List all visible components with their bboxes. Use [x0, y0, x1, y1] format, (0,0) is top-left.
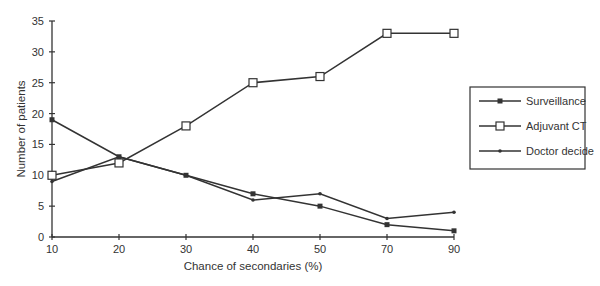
y-tick-label: 35: [32, 15, 44, 27]
dot-marker-icon: [50, 180, 54, 184]
legend-label: Adjuvant CT: [526, 120, 587, 132]
dot-marker-icon: [318, 192, 322, 196]
y-tick-label: 15: [32, 138, 44, 150]
open-square-marker-icon: [249, 79, 257, 87]
y-axis-label: Number of patients: [15, 80, 27, 177]
dot-marker-icon: [184, 173, 188, 177]
legend-label: Doctor decide: [526, 145, 594, 157]
series-doctor-decide: [52, 157, 454, 219]
filled-square-marker-icon: [50, 117, 55, 122]
filled-square-marker-icon: [498, 99, 503, 104]
y-tick-label: 25: [32, 77, 44, 89]
open-square-marker-icon: [450, 29, 458, 37]
legend-label: Surveillance: [526, 95, 586, 107]
filled-square-marker-icon: [452, 228, 457, 233]
chart-axes: 0510152025303510203040507090: [32, 15, 460, 255]
x-tick-label: 40: [247, 243, 259, 255]
y-tick-label: 5: [38, 200, 44, 212]
dot-marker-icon: [498, 149, 502, 153]
chart-legend: SurveillanceAdjuvant CTDoctor decide: [470, 87, 594, 169]
x-tick-label: 90: [448, 243, 460, 255]
series-line: [52, 33, 454, 175]
open-square-marker-icon: [48, 171, 56, 179]
chart-series: [48, 29, 458, 233]
x-tick-label: 50: [314, 243, 326, 255]
line-chart: 0510152025303510203040507090 Chance of s…: [0, 0, 600, 286]
dot-marker-icon: [385, 217, 389, 221]
filled-square-marker-icon: [251, 191, 256, 196]
x-tick-label: 10: [46, 243, 58, 255]
series-surveillance: [52, 120, 454, 231]
dot-marker-icon: [251, 198, 255, 202]
y-tick-label: 10: [32, 169, 44, 181]
filled-square-marker-icon: [385, 222, 390, 227]
open-square-marker-icon: [383, 29, 391, 37]
filled-square-marker-icon: [318, 204, 323, 209]
open-square-marker-icon: [496, 122, 504, 130]
series-line: [52, 157, 454, 219]
open-square-marker-icon: [182, 122, 190, 130]
x-tick-label: 20: [113, 243, 125, 255]
dot-marker-icon: [452, 211, 456, 215]
x-tick-label: 30: [180, 243, 192, 255]
series-markers: [50, 117, 457, 233]
series-markers: [48, 29, 458, 179]
y-tick-label: 0: [38, 231, 44, 243]
open-square-marker-icon: [115, 159, 123, 167]
x-tick-label: 70: [381, 243, 393, 255]
series-adjuvant-ct: [52, 33, 454, 175]
dot-marker-icon: [117, 155, 121, 159]
series-line: [52, 120, 454, 231]
y-tick-label: 30: [32, 46, 44, 58]
x-axis-label: Chance of secondaries (%): [184, 260, 323, 272]
y-tick-label: 20: [32, 108, 44, 120]
open-square-marker-icon: [316, 73, 324, 81]
